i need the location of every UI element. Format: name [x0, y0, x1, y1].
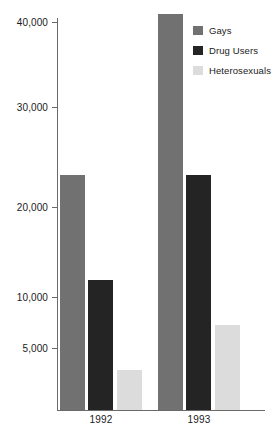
bar-1993-drug-users	[186, 175, 211, 410]
bar-1993-gays	[158, 14, 183, 410]
x-axis-line	[57, 410, 265, 411]
y-tick-label-30000: 30,000	[17, 102, 48, 113]
y-tick-label-5000: 5,000	[22, 343, 48, 354]
bar-1992-gays	[60, 175, 85, 410]
bar-1992-drug-users	[88, 280, 113, 410]
legend-item-gays: Gays	[193, 22, 271, 38]
bar-1992-heterosexuals	[117, 370, 142, 410]
y-tick-label-40000: 40,000	[17, 17, 48, 28]
y-tick-mark-30000	[52, 107, 58, 108]
x-axis-label-1993: 1993	[169, 414, 229, 425]
legend-item-heterosexuals: Heterosexuals	[193, 62, 271, 78]
bar-1993-heterosexuals	[215, 325, 240, 410]
chart-legend: Gays Drug Users Heterosexuals	[193, 22, 271, 82]
y-tick-label-20000: 20,000	[17, 202, 48, 213]
y-tick-mark-20000	[52, 207, 58, 208]
legend-swatch-gays-icon	[193, 26, 203, 35]
legend-label-drug-users: Drug Users	[209, 45, 258, 56]
x-axis-label-1992: 1992	[71, 414, 131, 425]
y-axis-line	[57, 18, 58, 411]
y-tick-label-10000: 10,000	[17, 292, 48, 303]
y-tick-mark-10000	[52, 297, 58, 298]
y-tick-mark-5000	[52, 348, 58, 349]
legend-swatch-drug-users-icon	[193, 46, 203, 55]
bar-chart: 40,000 30,000 20,000 10,000 5,000 1992 1…	[0, 0, 280, 430]
y-tick-mark-40000	[52, 22, 58, 23]
legend-label-gays: Gays	[209, 25, 232, 36]
legend-swatch-heterosexuals-icon	[193, 66, 203, 75]
legend-label-heterosexuals: Heterosexuals	[209, 65, 271, 76]
legend-item-drug-users: Drug Users	[193, 42, 271, 58]
